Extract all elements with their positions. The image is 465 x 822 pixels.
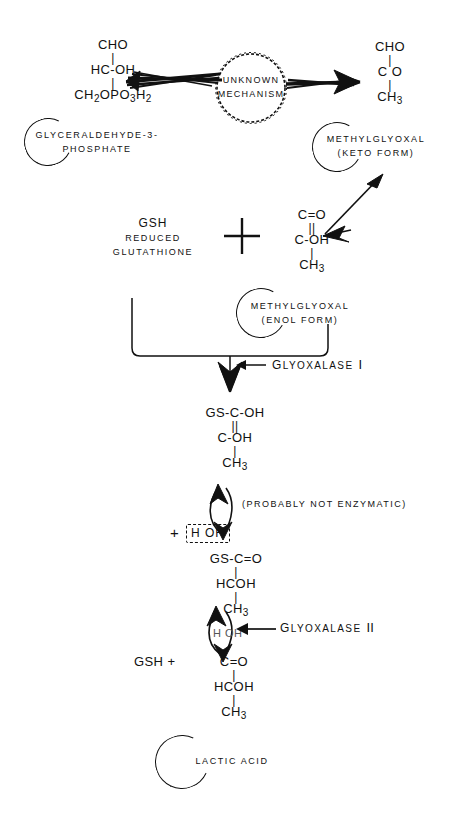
g3p-ch: CH xyxy=(74,87,94,102)
water-molecule-box: H OH xyxy=(186,524,230,543)
thiohemiacetal-formula: GS-C-OH || C-OH | CH3 xyxy=(185,406,285,471)
mg-keto-label-line2: (KETO FORM) xyxy=(338,148,415,158)
gsh-released-label: GSH + xyxy=(134,655,204,668)
gsh-reduced-glutathione: GSH REDUCED GLUTATHIONE xyxy=(88,214,218,259)
thiohemiacetal-sub: 3 xyxy=(242,461,248,472)
mg-keto-line3: CH3 xyxy=(345,90,435,105)
lactic-acid-formula: C=O | HCOH | CH3 xyxy=(196,655,272,720)
unknown-mechanism-label: UNKNOWN MECHANISM xyxy=(211,74,291,101)
plus-sign-reactants xyxy=(222,216,262,256)
glyoxalase-2-numeral: II xyxy=(362,620,374,635)
g3p-label: GLYCERALDEHYDE-3- PHOSPHATE xyxy=(22,129,172,156)
mg-keto-label-line1: METHYLGLYOXAL xyxy=(327,134,426,144)
gsh-line1: REDUCED xyxy=(125,233,181,243)
glyoxalase-1-numeral: I xyxy=(354,357,363,372)
mg-enol-line3: CH3 xyxy=(272,258,352,273)
lactic-ch: CH xyxy=(221,704,241,719)
glyoxalase-1-label: GLYOXALASEI xyxy=(272,357,362,372)
lactic-line3: CH3 xyxy=(196,705,272,720)
mechanism-line1: UNKNOWN xyxy=(223,75,280,85)
glyoxalase-2-label: GLYOXALASEII xyxy=(280,620,374,635)
water-plus-sign: + xyxy=(170,524,179,541)
mg-enol-sub: 3 xyxy=(319,263,325,274)
glyoxalase-1-name-first: G xyxy=(272,358,283,372)
arrow-glyoxalase2-pointer xyxy=(236,621,278,637)
g3p-label-line1: GLYCERALDEHYDE-3- xyxy=(35,130,158,140)
thiohemiacetal-line3: CH3 xyxy=(185,456,285,471)
mechanism-line2: MECHANISM xyxy=(218,89,285,99)
methylglyoxal-keto-label: METHYLGLYOXAL (KETO FORM) xyxy=(311,133,441,160)
methylglyoxal-keto-formula: CHO | C O | CH3 xyxy=(345,40,435,105)
thiohemiacetal-ch: CH xyxy=(222,455,242,470)
reaction-bracket-and-arrow-glyoxalase1 xyxy=(130,298,330,394)
gsh-line2: GLUTATHIONE xyxy=(113,247,193,257)
gsh-abbrev: GSH xyxy=(138,216,167,230)
mg-keto-sub: 3 xyxy=(397,95,403,106)
lactic-sub: 3 xyxy=(241,710,247,721)
methylglyoxal-enol-formula: C=O || C-OH | CH3 xyxy=(272,208,352,273)
mg-keto-ch: CH xyxy=(377,89,397,104)
glyoxalase-2-name-first: G xyxy=(280,621,291,635)
mg-enol-ch: CH xyxy=(299,257,319,272)
probably-not-enzymatic-note: (PROBABLY NOT ENZYMATIC) xyxy=(242,499,407,509)
arrow-glyoxalase1-pointer xyxy=(236,358,268,372)
glyoxalase-pathway-diagram: { "diagram": { "title": "Glyoxalase path… xyxy=(0,0,465,822)
g3p-label-line2: PHOSPHATE xyxy=(62,144,131,154)
glyoxalase-2-name-rest: LYOXALASE xyxy=(291,623,362,634)
glyoxalase-1-name-rest: LYOXALASE xyxy=(283,360,354,371)
lactic-acid-label: LACTIC ACID xyxy=(152,755,312,769)
